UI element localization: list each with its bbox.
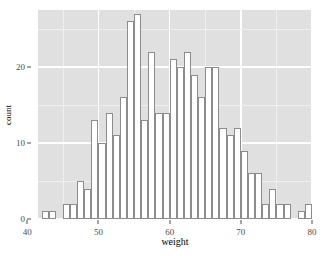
histogram-bar [219, 128, 226, 219]
y-axis-title-text: count [3, 105, 13, 125]
histogram-bar [170, 59, 177, 219]
histogram-chart: 01020 4050607080 weight count [0, 0, 325, 274]
histogram-bar [177, 67, 184, 219]
histogram-bar [227, 135, 234, 219]
y-tick-label: 10 [16, 138, 25, 148]
histogram-bar [49, 211, 56, 219]
histogram-bar [298, 211, 305, 219]
histogram-bar [106, 113, 113, 219]
x-axis-title: weight [38, 236, 312, 247]
histogram-bar [84, 189, 91, 219]
y-tick-mark [27, 143, 31, 144]
histogram-bar [134, 14, 141, 219]
x-tick-mark [169, 220, 170, 224]
histogram-bars [38, 10, 312, 219]
histogram-bar [205, 67, 212, 219]
plot-panel [38, 10, 312, 219]
histogram-bar [113, 135, 120, 219]
histogram-bar [269, 189, 276, 219]
x-tick-mark [98, 220, 99, 224]
y-tick-mark [27, 67, 31, 68]
histogram-bar [63, 204, 70, 219]
histogram-bar [70, 204, 77, 219]
histogram-bar [120, 97, 127, 219]
y-tick-label: 0 [21, 214, 26, 224]
x-tick-mark [27, 220, 28, 224]
histogram-bar [262, 204, 269, 219]
histogram-bar [248, 173, 255, 219]
histogram-bar [141, 120, 148, 219]
histogram-bar [184, 52, 191, 219]
histogram-bar [77, 181, 84, 219]
histogram-bar [284, 204, 291, 219]
histogram-bar [241, 151, 248, 219]
histogram-bar [91, 120, 98, 219]
histogram-bar [212, 67, 219, 219]
histogram-bar [191, 75, 198, 219]
histogram-bar [255, 173, 262, 219]
histogram-bar [198, 97, 205, 219]
histogram-bar [305, 204, 312, 219]
histogram-bar [155, 113, 162, 219]
y-tick-label: 20 [16, 62, 25, 72]
histogram-bar [127, 21, 134, 219]
histogram-bar [276, 204, 283, 219]
x-tick-mark [240, 220, 241, 224]
x-tick-mark [312, 220, 313, 224]
y-axis-title: count [2, 10, 14, 219]
histogram-bar [42, 211, 49, 219]
histogram-bar [98, 143, 105, 219]
histogram-bar [234, 128, 241, 219]
x-tick-label: 40 [23, 227, 32, 237]
histogram-bar [163, 113, 170, 219]
histogram-bar [148, 52, 155, 219]
